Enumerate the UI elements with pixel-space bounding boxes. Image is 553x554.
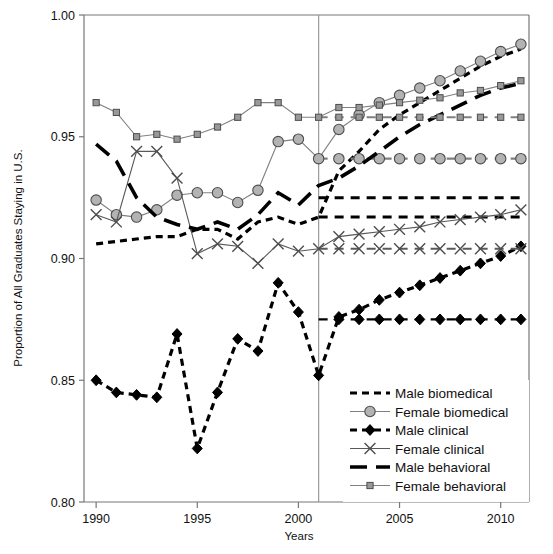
- data-point-marker: [498, 83, 504, 89]
- data-point-marker: [233, 333, 243, 344]
- x-tick-label: 2005: [386, 512, 414, 526]
- x-axis-title: Years: [285, 530, 314, 542]
- data-point-marker: [253, 258, 264, 269]
- data-point-marker: [172, 173, 183, 184]
- data-point-marker: [455, 66, 465, 76]
- data-point-marker: [516, 204, 527, 215]
- data-point-marker: [394, 90, 404, 100]
- counterfactual-marker: [336, 114, 342, 120]
- counterfactual-marker: [477, 114, 483, 120]
- data-point-marker: [374, 294, 384, 305]
- data-point-marker: [233, 197, 243, 207]
- counterfactual-marker: [417, 114, 423, 120]
- data-point-marker: [475, 56, 485, 66]
- data-point-marker: [214, 124, 220, 130]
- counterfactual-marker: [394, 153, 404, 163]
- x-tick-label: 1990: [82, 512, 110, 526]
- data-point-marker: [516, 39, 526, 49]
- data-point-marker: [376, 102, 382, 108]
- counterfactual-marker: [435, 314, 445, 325]
- legend-swatch-marker: [367, 482, 373, 488]
- data-point-marker: [293, 134, 303, 144]
- data-point-marker: [91, 195, 101, 205]
- data-point-marker: [93, 100, 99, 106]
- data-point-marker: [417, 97, 423, 103]
- counterfactual-marker: [376, 114, 382, 120]
- y-tick-label: 0.85: [51, 374, 75, 388]
- data-point-marker: [316, 114, 322, 120]
- legend: Male biomedicalFemale biomedicalMale cli…: [343, 380, 529, 502]
- counterfactual-marker: [455, 314, 465, 325]
- data-point-marker: [253, 185, 263, 195]
- y-tick-label: 0.80: [51, 496, 75, 510]
- data-point-marker: [437, 95, 443, 101]
- data-point-marker: [213, 387, 223, 398]
- data-point-marker: [273, 136, 283, 146]
- counterfactual-marker: [518, 114, 524, 120]
- data-point-marker: [253, 346, 263, 357]
- data-point-marker: [314, 370, 324, 381]
- counterfactual-marker: [475, 153, 485, 163]
- data-point-marker: [132, 389, 142, 400]
- data-point-marker: [152, 392, 162, 403]
- data-point-marker: [475, 258, 485, 269]
- data-point-marker: [235, 114, 241, 120]
- chart-container: 0.800.850.900.951.0019901995200020052010…: [0, 0, 553, 554]
- legend-label: Female behavioral: [395, 479, 506, 494]
- y-tick-label: 0.90: [51, 252, 75, 266]
- y-axis-title: Proportion of All Graduates Staying in U…: [12, 149, 24, 366]
- data-point-marker: [275, 100, 281, 106]
- y-tick-label: 1.00: [51, 9, 75, 23]
- data-point-marker: [477, 87, 483, 93]
- counterfactual-marker: [415, 153, 425, 163]
- data-point-marker: [295, 114, 301, 120]
- data-point-marker: [415, 83, 425, 93]
- data-point-marker: [334, 124, 344, 134]
- counterfactual-marker: [437, 114, 443, 120]
- data-point-marker: [273, 238, 284, 249]
- data-point-marker: [273, 277, 283, 288]
- legend-label: Male behavioral: [395, 460, 490, 475]
- counterfactual-marker: [516, 153, 526, 163]
- x-tick-label: 2000: [285, 512, 313, 526]
- data-point-marker: [396, 100, 402, 106]
- data-point-marker: [212, 188, 222, 198]
- legend-label: Male biomedical: [395, 386, 493, 401]
- counterfactual-marker: [374, 314, 384, 325]
- legend-label: Female biomedical: [395, 405, 508, 420]
- data-point-marker: [415, 280, 425, 291]
- counterfactual-marker: [516, 314, 526, 325]
- data-point-marker: [192, 443, 202, 454]
- data-point-marker: [91, 209, 102, 220]
- data-point-marker: [336, 104, 342, 110]
- counterfactual-marker: [334, 153, 344, 163]
- data-point-marker: [395, 287, 405, 298]
- data-point-marker: [313, 153, 323, 163]
- counterfactual-marker: [457, 114, 463, 120]
- data-point-marker: [154, 131, 160, 137]
- data-point-marker: [455, 265, 465, 276]
- legend-label: Female clinical: [395, 442, 484, 457]
- counterfactual-marker: [455, 153, 465, 163]
- counterfactual-marker: [475, 314, 485, 325]
- counterfactual-marker: [396, 114, 402, 120]
- legend-swatch-marker: [365, 406, 375, 416]
- data-point-marker: [255, 100, 261, 106]
- data-point-marker: [356, 104, 362, 110]
- counterfactual-marker: [498, 114, 504, 120]
- data-point-marker: [172, 329, 182, 340]
- line-chart: 0.800.850.900.951.0019901995200020052010…: [0, 0, 553, 554]
- data-point-marker: [192, 188, 202, 198]
- data-point-marker: [435, 273, 445, 284]
- data-point-marker: [113, 109, 119, 115]
- counterfactual-marker: [415, 314, 425, 325]
- data-point-marker: [457, 90, 463, 96]
- x-tick-label: 1995: [183, 512, 211, 526]
- data-point-marker: [131, 212, 141, 222]
- counterfactual-marker: [435, 153, 445, 163]
- data-point-marker: [194, 131, 200, 137]
- series-female-behavioral: [93, 78, 524, 143]
- x-tick-label: 2010: [487, 512, 515, 526]
- counterfactual-marker: [395, 314, 405, 325]
- counterfactual-marker: [356, 114, 362, 120]
